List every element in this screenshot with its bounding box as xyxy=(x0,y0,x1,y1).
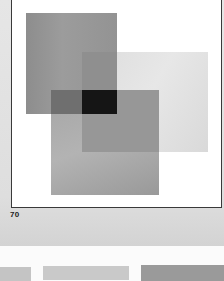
overlap-right-bottom xyxy=(82,114,159,152)
page-number: 70 xyxy=(10,210,20,219)
overlap-right-bottom-upper xyxy=(117,90,159,114)
next-page-strip-3 xyxy=(141,265,224,281)
overlap-top-left-right xyxy=(82,52,117,90)
overlap-all-three-dark xyxy=(82,90,117,114)
next-page-strip-2 xyxy=(43,266,129,280)
overlap-top-left-bottom xyxy=(51,90,82,114)
next-page-strip-1 xyxy=(0,267,31,281)
